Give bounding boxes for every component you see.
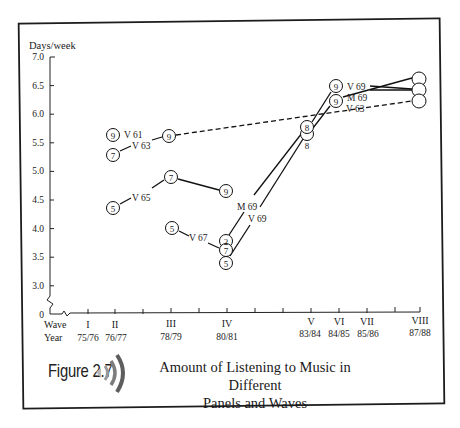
line-v67-b bbox=[208, 243, 219, 248]
ytick-5-0: 5.0 bbox=[32, 166, 44, 176]
label-v69-right: V 69 bbox=[347, 82, 366, 92]
line-m69-b bbox=[254, 133, 302, 195]
ytick-3-5: 3.5 bbox=[32, 252, 44, 262]
year-row-label: Year bbox=[44, 332, 63, 343]
figure-title: Amount of Listening to Music in Differen… bbox=[140, 358, 370, 412]
label-v63: V 63 bbox=[132, 141, 151, 151]
wave-II: II bbox=[112, 319, 119, 330]
wave-VI: VI bbox=[334, 316, 345, 327]
svg-text:9: 9 bbox=[224, 187, 229, 197]
border-box bbox=[19, 18, 445, 408]
chart-area: Days/week 7.0 6.5 6.0 5.5 5.0 4.5 4.0 3.… bbox=[29, 40, 431, 343]
year-83-84: 83/84 bbox=[299, 329, 321, 339]
line-v67-a bbox=[179, 231, 189, 236]
year-84-85: 84/85 bbox=[328, 329, 350, 339]
wave-I: I bbox=[86, 319, 89, 330]
y-axis-break bbox=[47, 296, 53, 314]
ytick-6-5: 6.5 bbox=[32, 81, 44, 91]
svg-text:9: 9 bbox=[111, 131, 116, 141]
ytick-5-5: 5.5 bbox=[32, 138, 44, 148]
x-labels: Wave Year I II III IV V VI VII VIII 75/7… bbox=[44, 315, 431, 343]
svg-text:7: 7 bbox=[169, 173, 174, 183]
svg-text:8: 8 bbox=[305, 123, 310, 133]
line-v63-dashed bbox=[176, 101, 412, 135]
year-80-81: 80/81 bbox=[216, 332, 238, 342]
ytick-4-0: 4.0 bbox=[32, 224, 44, 234]
svg-text:9: 9 bbox=[167, 132, 172, 142]
figure-title-line1: Amount of Listening to Music in Differen… bbox=[140, 358, 370, 394]
svg-text:5: 5 bbox=[111, 204, 116, 214]
wave-row-label: Wave bbox=[44, 319, 67, 330]
line-m69-a bbox=[229, 212, 244, 235]
label-v63-right: V 63 bbox=[346, 104, 365, 114]
ytick-3-0: 3.0 bbox=[32, 281, 44, 291]
svg-text:9: 9 bbox=[334, 82, 339, 92]
series-lines bbox=[120, 78, 412, 256]
label-m69-right: M 69 bbox=[347, 93, 368, 103]
label-v65: V 65 bbox=[132, 193, 151, 203]
year-76-77: 76/77 bbox=[105, 333, 127, 343]
label-v67: V 67 bbox=[189, 233, 208, 243]
line-v63-a bbox=[120, 146, 131, 151]
series-labels: V 61 V 63 V 65 V 67 M 69 V 69 V 69 M 69 … bbox=[124, 82, 368, 243]
year-75-76: 75/76 bbox=[77, 333, 99, 343]
label-v61: V 61 bbox=[124, 130, 143, 140]
wave-VII: VII bbox=[360, 316, 374, 327]
label-m69-mid: M 69 bbox=[237, 202, 258, 212]
line-v65-c bbox=[178, 179, 219, 190]
ytick-6-0: 6.0 bbox=[32, 109, 44, 119]
marker-v63-end bbox=[412, 94, 426, 108]
year-78-79: 78/79 bbox=[160, 332, 182, 342]
figure-title-line2: Panels and Waves bbox=[140, 394, 370, 412]
line-v69-b bbox=[260, 139, 303, 207]
svg-text:7: 7 bbox=[224, 246, 229, 256]
line-v65-b bbox=[152, 180, 164, 188]
svg-text:7: 7 bbox=[111, 151, 116, 161]
label-v69-mid: V 69 bbox=[248, 214, 267, 224]
y-axis-label: Days/week bbox=[29, 40, 76, 51]
grade-markers bbox=[107, 72, 427, 270]
year-85-86: 85/86 bbox=[357, 329, 379, 339]
wave-V: V bbox=[307, 316, 315, 327]
wave-IV: IV bbox=[222, 318, 233, 329]
svg-text:9: 9 bbox=[334, 97, 339, 107]
year-87-88: 87/88 bbox=[409, 328, 431, 338]
y-ticks: 7.0 6.5 6.0 5.5 5.0 4.5 4.0 3.5 3.0 0 bbox=[32, 52, 54, 320]
line-v63-b bbox=[152, 137, 162, 140]
svg-text:8: 8 bbox=[305, 141, 310, 151]
wave-VIII: VIII bbox=[411, 315, 428, 326]
grade-numbers: 9 7 9 5 7 9 5 2 7 5 8 8 9 9 bbox=[111, 82, 339, 269]
svg-text:5: 5 bbox=[224, 259, 229, 269]
ytick-7-0: 7.0 bbox=[32, 52, 44, 62]
speaker-sound-waves-icon bbox=[92, 352, 132, 396]
line-v65-a bbox=[120, 198, 131, 204]
svg-text:5: 5 bbox=[170, 224, 175, 234]
ytick-4-5: 4.5 bbox=[32, 195, 44, 205]
wave-III: III bbox=[166, 318, 176, 329]
